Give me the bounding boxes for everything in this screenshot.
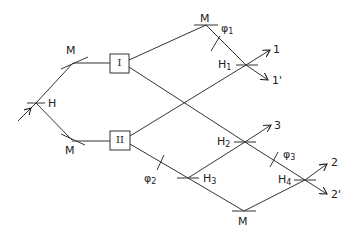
label-output-2: 2 xyxy=(331,157,338,168)
phase-shifter-phi1 xyxy=(211,36,220,51)
label-output-1-prime: 1' xyxy=(272,75,282,86)
phase-shifter-phi2 xyxy=(157,155,164,170)
H3-subscript: 3 xyxy=(211,177,216,186)
label-H2: H2 xyxy=(217,136,230,149)
H2-subscript: 2 xyxy=(225,140,230,149)
label-mirror-bottom: M xyxy=(238,216,248,227)
H4-subscript: 4 xyxy=(286,178,291,187)
phi3-subscript: 3 xyxy=(290,153,295,162)
label-mirror-lower: M xyxy=(65,145,75,156)
label-H1: H1 xyxy=(218,59,231,72)
label-box-II: II xyxy=(110,135,130,145)
label-mirror-top: M xyxy=(200,13,210,24)
label-phi3: φ3 xyxy=(283,149,295,162)
diagram-lines xyxy=(0,0,358,241)
label-H4: H4 xyxy=(278,174,291,187)
label-phi2: φ2 xyxy=(144,173,156,186)
label-mirror-upper: M xyxy=(66,45,76,56)
label-phi1: φ1 xyxy=(221,23,233,36)
phi1-subscript: 1 xyxy=(228,27,233,36)
label-output-2-prime: 2' xyxy=(331,189,341,200)
phase-shifter-phi3 xyxy=(270,152,278,167)
phi2-subscript: 2 xyxy=(151,177,156,186)
label-output-1: 1 xyxy=(273,44,280,55)
label-box-I: I xyxy=(110,58,129,68)
label-H: H xyxy=(48,98,56,109)
interferometer-diagram: H M M I II M φ1 H1 1 1' H2 3 φ3 H4 2 2' … xyxy=(0,0,358,241)
label-output-3: 3 xyxy=(274,120,281,131)
H1-subscript: 1 xyxy=(226,63,231,72)
label-H3: H3 xyxy=(203,173,216,186)
